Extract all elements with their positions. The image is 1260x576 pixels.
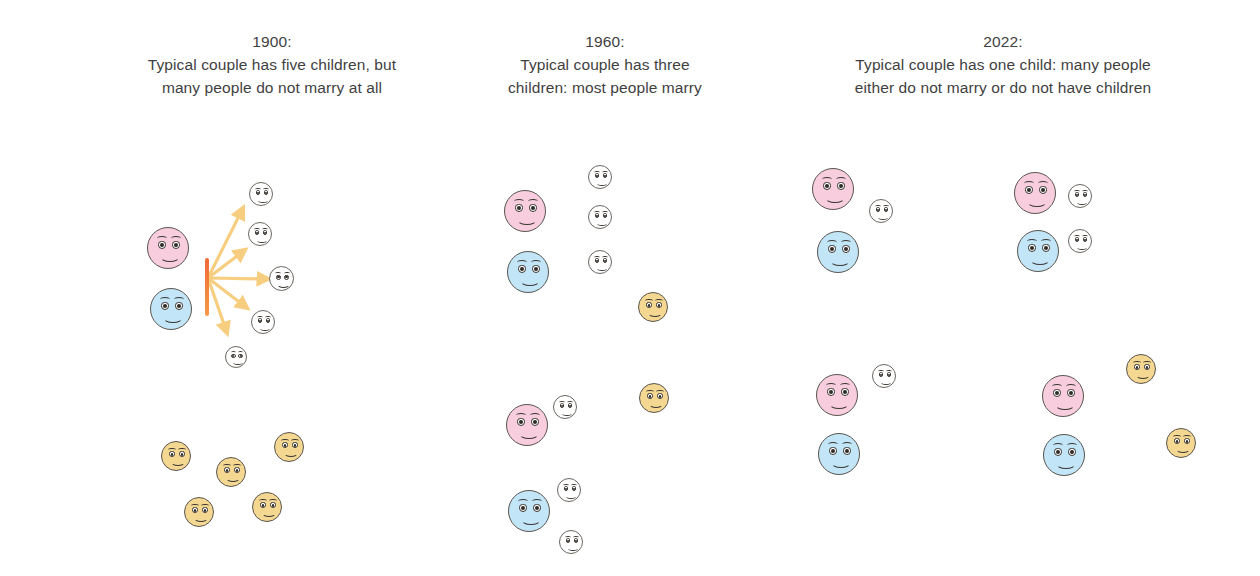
- right-brow: [1183, 435, 1190, 439]
- right-pupil: [1186, 440, 1189, 443]
- left-brow: [1173, 435, 1180, 439]
- single-person-face: [1166, 428, 1196, 458]
- mouth: [1136, 372, 1151, 380]
- left-brow: [1133, 361, 1140, 365]
- single-person-face: [1126, 354, 1156, 384]
- infographic-canvas: 1900:Typical couple has five children, b…: [0, 0, 1260, 576]
- mouth: [1176, 446, 1191, 454]
- right-pupil: [1146, 366, 1149, 369]
- single-people-bottom-right: [0, 0, 1260, 576]
- right-brow: [1143, 361, 1150, 365]
- panel-2022: 2022:Typical couple has one child: many …: [0, 0, 1260, 576]
